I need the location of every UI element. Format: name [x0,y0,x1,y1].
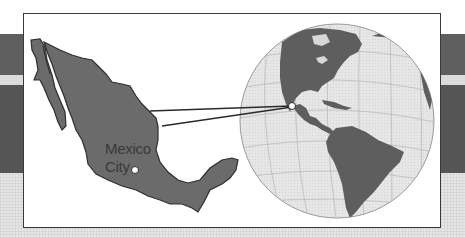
mexico-mainland [44,42,238,212]
mexico-map [31,39,238,212]
globe-location-marker [289,103,296,110]
globe [240,24,434,218]
map-label-mexico: Mexico [105,140,151,157]
mexico-city-marker [132,167,139,174]
figure-artwork [0,0,465,238]
map-label-city: City [105,158,130,175]
